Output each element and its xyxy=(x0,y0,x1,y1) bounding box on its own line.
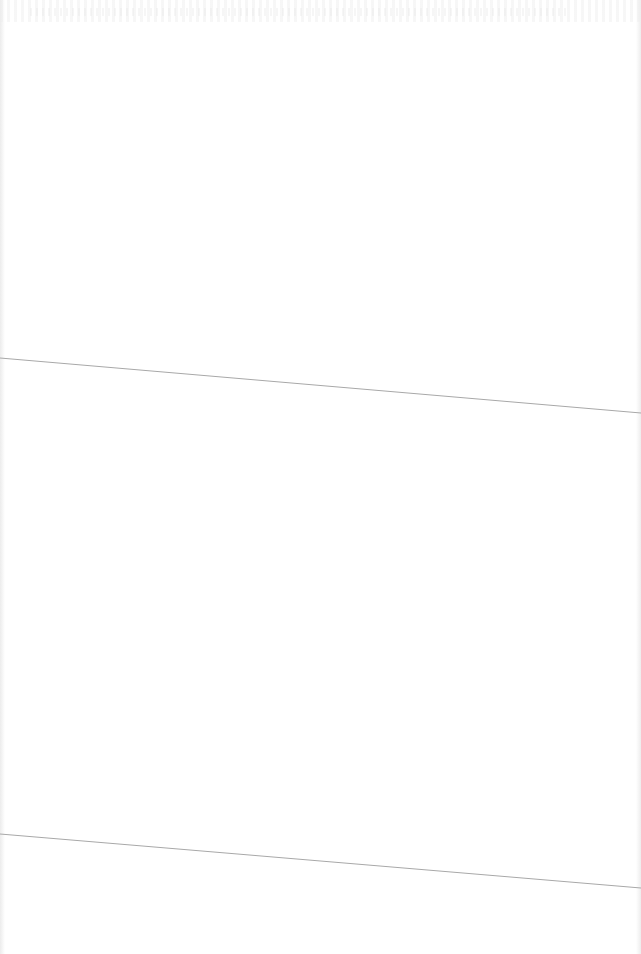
blank-scanned-page xyxy=(0,0,641,954)
fold-lines xyxy=(0,0,641,954)
lower-fold-line xyxy=(0,834,641,888)
upper-fold-line xyxy=(0,358,641,413)
